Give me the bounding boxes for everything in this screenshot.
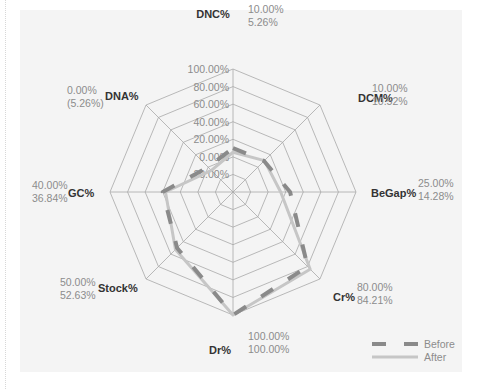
value-after: 52.63%: [60, 289, 96, 301]
legend-before-label: Before: [424, 338, 455, 350]
axis-label-dna: DNA%: [105, 90, 139, 102]
value-after: 5.26%: [248, 16, 278, 28]
grid-spoke: [233, 192, 320, 279]
value-after: 84.21%: [357, 294, 393, 306]
tick-label: 100.00%: [188, 63, 229, 75]
axis-label-cr: Cr%: [333, 291, 355, 303]
legend: Before After: [372, 338, 455, 363]
value-before: 10.00%: [372, 82, 408, 94]
grid-spoke: [233, 105, 320, 192]
radar-chart: -20.00%0.00%20.00%40.00%60.00%80.00%100.…: [0, 0, 478, 389]
value-before: 50.00%: [60, 276, 96, 288]
axis-label-dr: Dr%: [209, 344, 231, 356]
axis-label-stock: Stock%: [98, 282, 138, 294]
value-after: 10.52%: [372, 95, 408, 107]
value-after: 100.00%: [248, 343, 289, 355]
tick-label: 80.00%: [193, 81, 229, 93]
axis-label-dnc: DNC%: [196, 8, 230, 20]
value-after: 14.28%: [418, 190, 454, 202]
value-after: (5.26%): [67, 97, 104, 109]
radial-tick-labels: -20.00%0.00%20.00%40.00%60.00%80.00%100.…: [188, 63, 229, 180]
value-before: 10.00%: [248, 3, 284, 15]
value-before: 40.00%: [32, 179, 68, 191]
axis-label-begap: BeGap%: [371, 187, 416, 199]
tick-label: 20.00%: [193, 133, 229, 145]
value-before: 25.00%: [418, 177, 454, 189]
value-before: 80.00%: [357, 281, 393, 293]
axis-label-gc: GC%: [68, 187, 95, 199]
value-after: 36.84%: [32, 192, 68, 204]
legend-after-label: After: [424, 351, 447, 363]
tick-label: 40.00%: [193, 116, 229, 128]
data-series: [163, 148, 310, 315]
radar-grid: [110, 69, 356, 315]
tick-label: 60.00%: [193, 98, 229, 110]
axis-labels: DNC%10.00%5.26%DCM%10.00%10.52%BeGap%25.…: [32, 3, 454, 356]
series-before: [163, 148, 308, 315]
value-before: 100.00%: [248, 330, 289, 342]
value-before: 0.00%: [67, 84, 97, 96]
